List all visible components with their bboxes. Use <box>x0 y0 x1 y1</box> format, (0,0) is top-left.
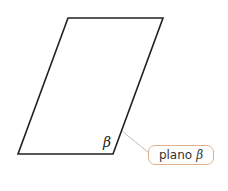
callout-text: plano <box>159 148 192 162</box>
plane-symbol-label: β <box>103 134 111 150</box>
plane-callout: plano β <box>148 145 214 165</box>
leader-line <box>122 131 149 153</box>
plane-parallelogram <box>18 18 163 154</box>
diagram-canvas: β plano β <box>0 0 228 191</box>
callout-symbol: β <box>196 148 203 162</box>
